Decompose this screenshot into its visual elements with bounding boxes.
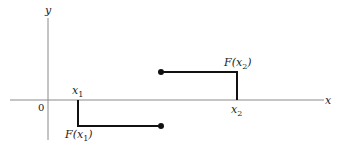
F-x2-label: F(x2) [223, 56, 252, 71]
lower-closed-dot [158, 123, 164, 129]
upper-step-segment [161, 72, 237, 100]
x-axis-label: x [325, 94, 332, 107]
upper-closed-dot [158, 69, 164, 75]
x1-label: x1 [72, 84, 83, 99]
F-x1-label: F(x1) [64, 128, 93, 143]
lower-step-segment [78, 100, 161, 126]
origin-label: 0 [38, 102, 44, 113]
diagram-svg: y x 0 x1 x2 F(x1) F(x2) [0, 0, 340, 146]
step-function-diagram: y x 0 x1 x2 F(x1) F(x2) [0, 0, 340, 146]
x2-label: x2 [231, 103, 242, 118]
y-axis-label: y [44, 4, 52, 17]
